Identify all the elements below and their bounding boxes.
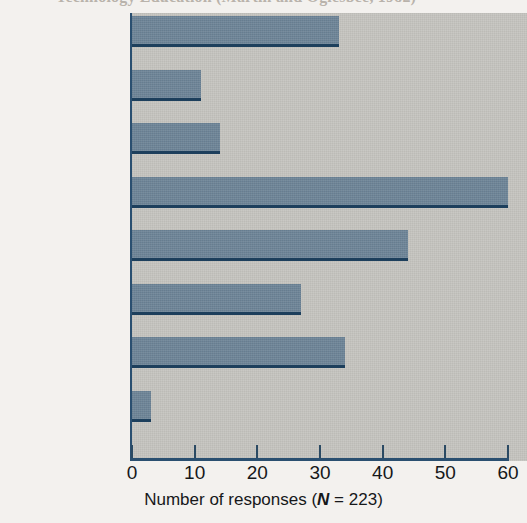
- x-tick-mark: [319, 445, 321, 458]
- bar: [132, 70, 201, 101]
- figure-caption-strip: Technology Education (Martin and Oglesbe…: [0, 0, 527, 9]
- x-tick-mark: [507, 445, 509, 458]
- x-tick-mark: [131, 445, 133, 458]
- x-axis-line: [132, 458, 509, 461]
- bar: [132, 284, 301, 315]
- x-tick-label: 60: [497, 462, 518, 484]
- x-tick-mark: [382, 445, 384, 458]
- x-tick-mark: [444, 445, 446, 458]
- x-axis-title: Number of responses (N = 223): [0, 490, 527, 510]
- x-tick-label: 10: [184, 462, 205, 484]
- x-tick-label: 40: [372, 462, 393, 484]
- figure-caption: Technology Education (Martin and Oglesbe…: [56, 0, 416, 6]
- bar: [132, 230, 408, 261]
- x-axis-title-prefix: Number of responses (: [144, 490, 317, 509]
- x-tick-label: 30: [309, 462, 330, 484]
- x-axis-title-n-symbol: N: [317, 490, 329, 509]
- x-axis-title-suffix: = 223): [329, 490, 382, 509]
- bar: [132, 16, 339, 47]
- x-tick-label: 50: [435, 462, 456, 484]
- x-tick-mark: [194, 445, 196, 458]
- x-tick-mark: [256, 445, 258, 458]
- x-tick-label: 20: [247, 462, 268, 484]
- bar: [132, 337, 345, 368]
- x-tick-label: 0: [127, 462, 138, 484]
- bar: [132, 177, 508, 208]
- bar: [132, 123, 220, 154]
- bar: [132, 391, 151, 422]
